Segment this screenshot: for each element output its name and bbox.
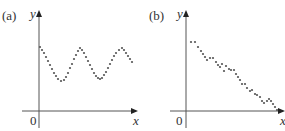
data-point — [95, 75, 97, 77]
data-point — [83, 52, 85, 54]
data-point — [237, 76, 239, 78]
data-point — [51, 68, 53, 70]
data-point — [118, 49, 120, 51]
data-point — [97, 77, 99, 79]
scatter-plot-a: (a) y 0 x — [0, 0, 142, 131]
data-point — [190, 41, 192, 43]
data-point — [249, 90, 251, 92]
data-point — [272, 103, 274, 105]
data-point — [79, 47, 81, 49]
y-axis-arrow-icon — [183, 10, 189, 17]
data-point — [239, 79, 241, 81]
data-point — [75, 54, 77, 56]
data-point — [103, 74, 105, 76]
data-point — [115, 52, 117, 54]
data-point — [266, 100, 268, 102]
data-point — [215, 61, 217, 63]
data-point — [49, 64, 51, 66]
data-point — [204, 56, 206, 58]
data-point — [254, 93, 256, 95]
data-point — [217, 64, 219, 66]
data-point — [230, 69, 232, 71]
data-point — [206, 59, 208, 61]
data-point — [99, 78, 101, 80]
data-point — [259, 96, 261, 98]
data-point — [69, 67, 71, 69]
data-point — [71, 63, 73, 65]
data-point — [123, 49, 125, 51]
data-point — [197, 46, 199, 48]
data-point — [65, 76, 67, 78]
data-point — [113, 55, 115, 57]
data-point — [200, 50, 202, 52]
data-point — [244, 83, 246, 85]
plot-a-canvas — [0, 0, 142, 131]
data-point — [63, 79, 65, 81]
x-axis-label-a: x — [133, 114, 139, 127]
data-point — [246, 87, 248, 89]
data-point — [67, 72, 69, 74]
data-point — [81, 49, 83, 51]
data-point — [219, 66, 221, 68]
y-axis-arrow-icon — [36, 10, 42, 17]
y-axis-label-b: y — [177, 7, 183, 20]
data-point — [276, 109, 278, 111]
origin-label-a: 0 — [30, 114, 37, 127]
data-point — [212, 57, 214, 59]
data-point — [85, 56, 87, 58]
data-point — [73, 58, 75, 60]
data-point — [107, 67, 109, 69]
data-point — [57, 78, 59, 80]
panel-label-b: (b) — [149, 9, 164, 22]
y-axis-label-a: y — [30, 7, 36, 20]
data-point — [39, 46, 41, 48]
data-point — [261, 100, 263, 102]
data-point — [221, 63, 223, 65]
origin-label-b: 0 — [176, 114, 183, 127]
data-point — [228, 68, 230, 70]
data-point — [209, 57, 211, 59]
data-point — [251, 89, 253, 91]
data-point — [202, 53, 204, 55]
data-point — [241, 83, 243, 85]
data-point — [233, 69, 235, 71]
data-point — [131, 61, 133, 63]
data-point — [43, 52, 45, 54]
scatter-plot-b: (b) y 0 x — [143, 0, 285, 131]
panel-label-a: (a) — [2, 9, 16, 22]
data-point — [41, 49, 43, 51]
x-axis-label-b: x — [280, 114, 285, 127]
data-point — [53, 72, 55, 74]
data-point — [127, 55, 129, 57]
plot-b-canvas — [143, 0, 285, 131]
data-point — [225, 65, 227, 67]
data-point — [47, 60, 49, 62]
data-point — [235, 73, 237, 75]
data-point — [270, 100, 272, 102]
data-point — [45, 56, 47, 58]
data-point — [91, 68, 93, 70]
data-point — [109, 63, 111, 65]
data-point — [256, 94, 258, 96]
data-point — [60, 80, 62, 82]
data-point — [274, 106, 276, 108]
data-point — [263, 102, 265, 104]
data-point — [194, 41, 196, 43]
data-point — [129, 58, 131, 60]
data-point — [93, 72, 95, 74]
data-point — [121, 47, 123, 49]
data-point — [55, 75, 57, 77]
data-point — [268, 98, 270, 100]
data-point — [87, 60, 89, 62]
data-point — [111, 59, 113, 61]
data-point — [89, 64, 91, 66]
data-point — [105, 71, 107, 73]
data-point — [223, 70, 225, 72]
data-point — [125, 52, 127, 54]
data-point — [77, 50, 79, 52]
data-point — [101, 77, 103, 79]
